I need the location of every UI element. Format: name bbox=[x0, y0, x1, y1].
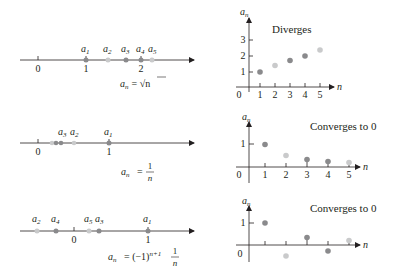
point-a1 bbox=[84, 58, 89, 63]
x-axis-label: n bbox=[363, 239, 368, 250]
panel-one-over-n: 0 1 a3 a2 a1 an = 1 n an n 0 Converge bbox=[20, 111, 377, 183]
tick-label-0: 0 bbox=[36, 63, 41, 74]
number-line-sqrt-n: 0 1 2 a1 a2 a3 a4 a5 bbox=[20, 43, 194, 74]
label-a4: a4 bbox=[51, 213, 60, 226]
point-a5 bbox=[150, 58, 155, 63]
point-a4 bbox=[54, 141, 59, 146]
label-a3: a3 bbox=[95, 213, 104, 226]
point-a2 bbox=[72, 141, 77, 146]
point-a5 bbox=[87, 229, 92, 234]
x-tick-label-4: 4 bbox=[303, 89, 308, 100]
graph-point-5 bbox=[317, 47, 323, 53]
graph-point-5 bbox=[346, 160, 352, 166]
point-a1 bbox=[107, 141, 112, 146]
tick-label-2: 2 bbox=[139, 63, 144, 74]
formula-lhs: an bbox=[108, 251, 117, 264]
point-a3 bbox=[124, 58, 129, 63]
x-tick-label-2: 2 bbox=[273, 89, 278, 100]
formula-eq: = bbox=[137, 166, 143, 177]
tick-label-0: 0 bbox=[72, 234, 77, 245]
tick-label-1: 1 bbox=[84, 63, 89, 74]
point-a3 bbox=[59, 141, 64, 146]
graph-point-3 bbox=[304, 157, 310, 163]
graph-point-4 bbox=[325, 248, 331, 254]
formula-num: 1 bbox=[148, 161, 153, 171]
tick-label-1: 1 bbox=[107, 146, 112, 157]
point-a2 bbox=[106, 58, 111, 63]
tick-label-1: 1 bbox=[146, 234, 151, 245]
graph-point-1 bbox=[262, 220, 268, 226]
graph-point-2 bbox=[283, 153, 289, 159]
label-a2: a2 bbox=[70, 126, 79, 139]
graph-point-3 bbox=[304, 235, 310, 241]
sequence-figure: 0 1 2 a1 a2 a3 a4 a5 an= √n an bbox=[0, 0, 393, 278]
point-a2 bbox=[35, 229, 40, 234]
panel-alternating: 0 1 a2 a4 a5 a3 a1 an = (−1)n+1 1 n an bbox=[20, 195, 377, 268]
x-tick-label-5: 5 bbox=[318, 89, 323, 100]
panel-sqrt-n: 0 1 2 a1 a2 a3 a4 a5 an= √n an bbox=[20, 6, 342, 100]
formula-alternating: an = (−1)n+1 1 n bbox=[108, 246, 179, 268]
graph-sqrt-n: an n 0 Diverges 1 2 3 1 2 3 4 5 bbox=[236, 6, 342, 100]
y-tick-label-1: 1 bbox=[241, 217, 246, 228]
x-tick-label-2: 2 bbox=[284, 169, 289, 180]
point-a3 bbox=[97, 229, 102, 234]
number-line-alternating: 0 1 a2 a4 a5 a3 a1 bbox=[20, 213, 194, 245]
graph-point-1 bbox=[262, 142, 268, 148]
converges-label: Converges to 0 bbox=[310, 202, 377, 214]
label-a1: a1 bbox=[143, 213, 152, 226]
label-a5: a5 bbox=[84, 213, 93, 226]
x-axis-label: n bbox=[337, 81, 342, 92]
label-a3: a3 bbox=[121, 43, 130, 56]
x-tick-label-3: 3 bbox=[288, 89, 293, 100]
label-a3: a3 bbox=[58, 126, 67, 139]
formula-den: n bbox=[148, 173, 153, 183]
y-tick-label-1: 1 bbox=[241, 138, 246, 149]
formula-one-over-n: an = 1 n bbox=[121, 161, 154, 183]
point-a5 bbox=[50, 141, 55, 146]
x-tick-label-1: 1 bbox=[258, 89, 263, 100]
graph-point-2 bbox=[283, 253, 289, 259]
x-tick-label-3: 3 bbox=[305, 169, 310, 180]
graph-point-2 bbox=[272, 63, 278, 69]
point-labels: a1 a2 a3 a4 a5 bbox=[81, 43, 157, 56]
graph-point-1 bbox=[257, 69, 263, 75]
graph-point-3 bbox=[287, 58, 293, 64]
x-tick-label-5: 5 bbox=[347, 169, 352, 180]
graph-point-4 bbox=[302, 53, 308, 59]
label-a4: a4 bbox=[136, 43, 145, 56]
label-a1: a1 bbox=[104, 126, 113, 139]
point-a4 bbox=[54, 229, 59, 234]
label-a2: a2 bbox=[103, 43, 112, 56]
formula-num: 1 bbox=[173, 246, 178, 256]
origin-label: 0 bbox=[237, 89, 242, 100]
y-axis-label: an bbox=[242, 111, 251, 124]
x-tick-label-4: 4 bbox=[326, 169, 331, 180]
converges-label: Converges to 0 bbox=[310, 120, 377, 132]
formula-den: n bbox=[173, 258, 178, 268]
y-tick-label-2: 2 bbox=[241, 50, 246, 61]
formula-lhs: an bbox=[121, 166, 130, 179]
label-a2: a2 bbox=[32, 213, 41, 226]
label-a5: a5 bbox=[148, 43, 157, 56]
y-tick-label-1: 1 bbox=[241, 66, 246, 77]
formula-sqrt-n: an= √n bbox=[120, 78, 150, 91]
origin-label: 0 bbox=[237, 169, 242, 180]
formula-eq: = (−1)n+1 bbox=[124, 250, 161, 263]
x-axis-label: n bbox=[363, 161, 368, 172]
graph-point-5 bbox=[346, 238, 352, 244]
y-tick-label-3: 3 bbox=[241, 34, 246, 45]
y-axis-label: an bbox=[240, 6, 249, 19]
diverges-label: Diverges bbox=[272, 23, 312, 35]
point-a1 bbox=[146, 229, 151, 234]
label-a1: a1 bbox=[81, 43, 90, 56]
graph-one-over-n: an n 0 Converges to 0 1 1 2 3 4 5 bbox=[236, 111, 377, 183]
y-axis-label: an bbox=[242, 195, 251, 208]
origin-label: 0 bbox=[238, 248, 243, 259]
graph-alternating: an n 0 Converges to 0 1 bbox=[236, 195, 377, 262]
tick-label-0: 0 bbox=[36, 146, 41, 157]
number-line-one-over-n: 0 1 a3 a2 a1 bbox=[20, 126, 194, 157]
point-a4 bbox=[139, 58, 144, 63]
graph-point-4 bbox=[325, 159, 331, 165]
x-tick-label-1: 1 bbox=[263, 169, 268, 180]
